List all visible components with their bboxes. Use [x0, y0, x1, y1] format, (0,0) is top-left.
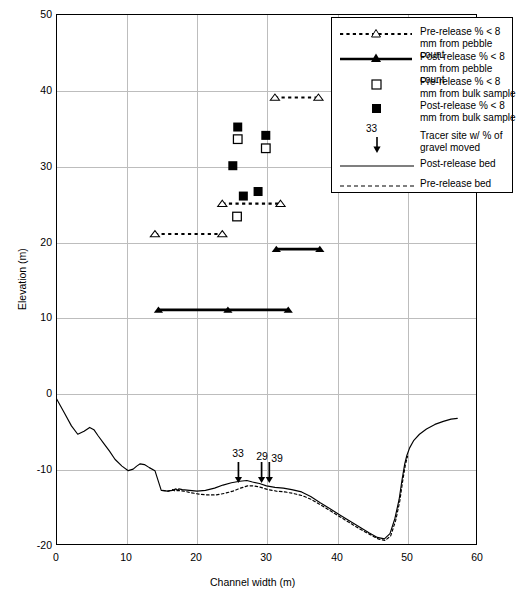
pre-release-pebble-marker: [150, 231, 159, 237]
legend-key-dashed-open-triangle: [338, 26, 418, 42]
legend: Pre-release % < 8 mm from pebble count P…: [331, 17, 513, 193]
post-release-bulk-marker: [233, 123, 242, 132]
legend-key-solid-line: [338, 158, 418, 174]
pre-release-pebble-marker: [218, 231, 227, 237]
legend-item-tracer: 33 Tracer site w/ % of gravel moved: [338, 124, 518, 154]
tracer-label-33: 33: [226, 447, 250, 459]
legend-label-post-bulk: Post-release % < 8 mm from bulk sample: [420, 100, 518, 123]
tracer-arrow-head: [266, 477, 273, 483]
legend-key-solid-filled-triangle: [338, 51, 418, 67]
pre-release-pebble-marker: [218, 200, 227, 206]
pre-release-bulk-marker: [233, 135, 242, 144]
legend-key-down-arrow: 33: [338, 124, 418, 154]
pre-release-bulk-marker: [262, 144, 271, 153]
pre-release-bulk-marker: [233, 212, 242, 221]
legend-label-tracer: Tracer site w/ % of gravel moved: [420, 130, 518, 153]
legend-key-open-square: [338, 76, 418, 92]
chart-figure: Elevation (m) 50 40 30 20 10 0 -10 -20 0…: [0, 0, 518, 599]
tracer-arrow-head: [258, 477, 265, 483]
tracer-label-39: 39: [265, 452, 289, 464]
post-release-bed-line: [56, 398, 457, 539]
legend-label-post-bed: Post-release bed: [420, 158, 518, 170]
post-release-bulk-marker: [228, 161, 237, 170]
legend-label-pre-bed: Pre-release bed: [420, 178, 518, 190]
legend-label-pre-bulk: Pre-release % < 8 mm from bulk sample: [420, 76, 518, 99]
legend-item-post-bulk: Post-release % < 8 mm from bulk sample: [338, 100, 518, 123]
legend-item-post-bed: Post-release bed: [338, 158, 518, 174]
post-release-bulk-marker: [261, 131, 270, 140]
pre-release-bed-line: [163, 456, 408, 540]
legend-item-pre-bulk: Pre-release % < 8 mm from bulk sample: [338, 76, 518, 99]
post-release-bulk-marker: [239, 192, 248, 201]
legend-item-pre-bed: Pre-release bed: [338, 178, 518, 194]
pre-release-pebble-marker: [270, 94, 279, 100]
legend-key-dashed-line: [338, 178, 418, 194]
post-release-bulk-marker: [254, 187, 263, 196]
legend-key-filled-square: [338, 100, 418, 116]
